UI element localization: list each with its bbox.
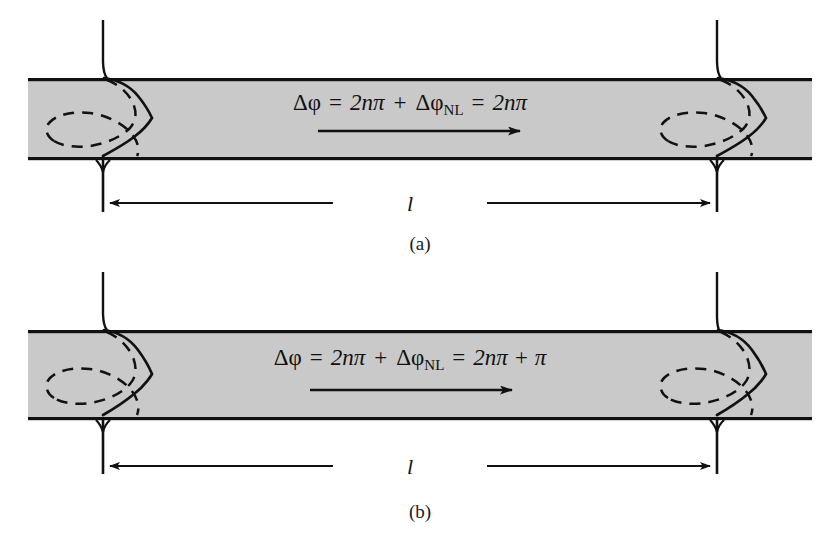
panel-a-length-dimension: l [110, 191, 710, 216]
panel-b-eq-nl-sub: NL [424, 357, 444, 373]
physics-figure-svg: Δφ=2nπ+ΔφNL=2nπ l (a) [0, 0, 840, 543]
figure-container: Δφ=2nπ+ΔφNL=2nπ l (a) [0, 0, 840, 543]
panel-a-eq-equals-1: = [329, 90, 342, 115]
panel-a: Δφ=2nπ+ΔφNL=2nπ l (a) [28, 20, 812, 255]
panel-a-eq-nl-base: Δφ [415, 90, 443, 115]
panel-b-eq-nl-base: Δφ [396, 345, 424, 370]
panel-b-eq-plus: + [374, 345, 387, 370]
panel-b-label: (b) [409, 501, 431, 523]
panel-b-medium-slab [28, 330, 812, 420]
panel-b-length-dimension: l [110, 454, 710, 479]
panel-b-length-label: l [407, 454, 413, 479]
panel-a-eq-delta-phi: Δφ [293, 90, 321, 115]
panel-a-eq-plus: + [394, 90, 407, 115]
panel-b-eq-result: 2nπ + π [473, 345, 548, 370]
panel-a-length-label: l [407, 191, 413, 216]
panel-b-eq-equals-1: = [310, 345, 323, 370]
panel-a-eq-term-linear: 2nπ [350, 90, 386, 115]
panel-b-eq-term-linear: 2nπ [331, 345, 367, 370]
panel-b-phase-equation: Δφ=2nπ+ΔφNL=2nπ + π [274, 345, 548, 373]
panel-a-eq-equals-2: = [472, 90, 485, 115]
panel-b-eq-delta-phi: Δφ [274, 345, 302, 370]
panel-a-eq-nl-sub: NL [444, 102, 464, 118]
panel-b: Δφ=2nπ+ΔφNL=2nπ + π l (b) [28, 272, 812, 523]
panel-a-label: (a) [409, 233, 430, 255]
panel-b-eq-equals-2: = [452, 345, 465, 370]
panel-a-eq-result: 2nπ [493, 90, 529, 115]
